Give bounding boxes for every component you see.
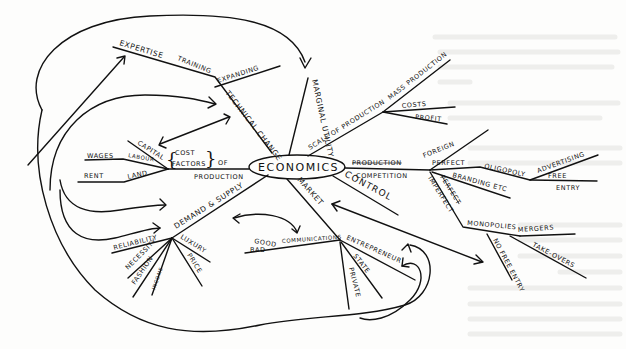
label-cost: COST bbox=[175, 149, 195, 157]
label-profit: PROFIT bbox=[415, 113, 442, 123]
label-land: LAND bbox=[127, 169, 149, 181]
label-market: MARKET bbox=[296, 175, 326, 207]
branch-competition: PRODUCTION COMPETITION FOREIGN PERFECT O… bbox=[345, 130, 598, 293]
label-income: INCOME bbox=[150, 266, 164, 290]
label-costs: COSTS bbox=[401, 100, 426, 110]
label-private: PRIVATE bbox=[347, 267, 362, 299]
arrow-to-demand-upper bbox=[60, 180, 165, 212]
label-of: OF bbox=[218, 159, 228, 167]
show-through-text bbox=[435, 37, 620, 334]
label-demand-supply: DEMAND & SUPPLY bbox=[172, 181, 245, 231]
arrow-capital-technical bbox=[160, 117, 229, 144]
label-rent: RENT bbox=[84, 172, 104, 180]
center-node: ECONOMICS bbox=[249, 155, 345, 179]
label-foreign: FOREIGN bbox=[422, 140, 456, 160]
arrow-outer-loop bbox=[38, 110, 430, 332]
mind-map-svg: ECONOMICS EXPERTISE TRAINING EXPANDING T… bbox=[0, 0, 626, 349]
label-wages: WAGES bbox=[87, 152, 114, 160]
label-branding: BRANDING ETC bbox=[451, 171, 507, 193]
label-crossed-production: PRODUCTION bbox=[352, 159, 402, 167]
demand-supply-line bbox=[172, 175, 268, 238]
branch-demand-supply: DEMAND & SUPPLY RELIABILITY NECESSITY FA… bbox=[112, 175, 268, 297]
label-production: PRODUCTION bbox=[194, 173, 244, 181]
arrow-market-nofree bbox=[332, 204, 482, 262]
arrow-to-demand-lower bbox=[60, 190, 160, 240]
free-entry-line bbox=[530, 180, 597, 181]
marginal-utility-line bbox=[289, 78, 308, 155]
label-mergers: MERGERS bbox=[518, 223, 555, 234]
mind-map-canvas: ECONOMICS EXPERTISE TRAINING EXPANDING T… bbox=[0, 0, 626, 349]
label-no-free-entry: NO FREE ENTRY bbox=[491, 237, 526, 293]
label-technical: TECHNICAL CHANGE bbox=[223, 88, 284, 163]
label-factors: FACTORS bbox=[172, 160, 206, 168]
label-communications: COMMUNICATIONS bbox=[282, 234, 342, 244]
label-mass-production: MASS PRODUCTION bbox=[386, 50, 449, 101]
arrowhead-marginal-utility bbox=[300, 58, 311, 68]
label-free: FREE bbox=[548, 172, 567, 180]
arrowhead-hook bbox=[402, 258, 409, 267]
mergers-line bbox=[520, 234, 575, 236]
branch-scale-of-production: SCALE OF PRODUCTION MASS PRODUCTION COST… bbox=[307, 50, 455, 156]
label-training: TRAINING bbox=[175, 54, 212, 75]
label-perfect: PERFECT bbox=[432, 159, 465, 167]
arrow-supply-communications bbox=[234, 214, 297, 232]
label-entry: ENTRY bbox=[556, 184, 580, 192]
branch-factors-of-production: CAPITAL WAGES LABOUR RENT LAND { COST FA… bbox=[78, 139, 249, 182]
right-brace-icon: } bbox=[205, 148, 216, 169]
center-label: ECONOMICS bbox=[258, 161, 339, 174]
competition-line bbox=[345, 168, 430, 170]
label-bad: BAD bbox=[250, 246, 266, 254]
